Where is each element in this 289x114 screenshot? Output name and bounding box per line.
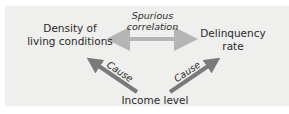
node-income-label: Income level bbox=[122, 94, 189, 106]
node-density-line2: living conditions bbox=[25, 35, 115, 48]
node-income: Income level bbox=[110, 94, 200, 107]
node-delinquency-line1: Delinquency bbox=[193, 27, 273, 40]
node-delinquency: Delinquency rate bbox=[193, 27, 273, 53]
correlation-label-line1: Spurious bbox=[115, 10, 190, 21]
node-density-line1: Density of bbox=[25, 22, 115, 35]
correlation-label-line2: correlation bbox=[115, 21, 190, 32]
correlation-label: Spurious correlation bbox=[115, 10, 190, 32]
node-density: Density of living conditions bbox=[25, 22, 115, 48]
node-delinquency-line2: rate bbox=[193, 40, 273, 53]
